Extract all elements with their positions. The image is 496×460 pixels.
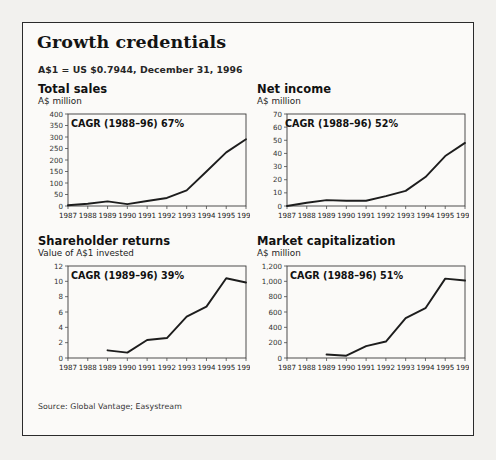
- y-axis-tick-label: 350: [49, 121, 63, 130]
- x-axis-tick-label: 1991: [138, 211, 156, 220]
- data-series-line: [68, 139, 246, 205]
- panel-shareholder-returns: Shareholder returns Value of A$1 investe…: [38, 235, 250, 383]
- panel-title: Shareholder returns: [38, 235, 250, 248]
- y-axis-tick-label: 10: [273, 188, 283, 197]
- x-axis-tick-label: 1990: [337, 211, 356, 220]
- x-axis-tick-label: 1994: [416, 211, 435, 220]
- exhibit-card: Growth credentials A$1 = US $0.7944, Dec…: [22, 22, 474, 436]
- y-axis-tick-label: 6: [58, 308, 63, 317]
- x-axis-tick-label: 1993: [178, 211, 196, 220]
- y-axis-tick-label: 10: [54, 277, 64, 286]
- x-axis-tick-label: 1991: [357, 363, 375, 372]
- y-axis-tick-label: 8: [58, 292, 63, 301]
- y-axis-tick-label: 20: [273, 175, 283, 184]
- x-axis-tick-label: 1996: [237, 363, 250, 372]
- panel-subtitle: A$ million: [38, 96, 250, 107]
- panel-subtitle: A$ million: [257, 96, 469, 107]
- x-axis-tick-label: 1990: [118, 363, 137, 372]
- panel-subtitle: A$ million: [257, 248, 469, 259]
- y-axis-tick-label: 150: [49, 167, 63, 176]
- x-axis-tick-label: 1992: [158, 211, 176, 220]
- x-axis-tick-label: 1992: [377, 363, 395, 372]
- panel-title: Total sales: [38, 83, 250, 96]
- chart-net-income: 0102030405060701987198819891990199119921…: [257, 108, 469, 231]
- panel-subtitle: Value of A$1 invested: [38, 248, 250, 259]
- x-axis-tick-label: 1988: [298, 211, 317, 220]
- x-axis-tick-label: 1991: [357, 211, 375, 220]
- x-axis-tick-label: 1987: [278, 211, 296, 220]
- x-axis-tick-label: 1990: [118, 211, 137, 220]
- panel-total-sales: Total sales A$ million 05010015020025030…: [38, 83, 250, 231]
- y-axis-tick-label: 40: [273, 149, 283, 158]
- x-axis-tick-label: 1988: [298, 363, 317, 372]
- x-axis-tick-label: 1996: [456, 211, 469, 220]
- y-axis-tick-label: 300: [49, 133, 63, 142]
- x-axis-tick-label: 1987: [278, 363, 296, 372]
- y-axis-tick-label: 30: [273, 162, 283, 171]
- x-axis-tick-label: 1987: [59, 363, 77, 372]
- y-axis-tick-label: 2: [58, 338, 63, 347]
- x-axis-tick-label: 1995: [436, 363, 454, 372]
- chart-total-sales: 0501001502002503003504001987198819891990…: [38, 108, 250, 231]
- data-series-line: [327, 279, 465, 356]
- panel-net-income: Net income A$ million 010203040506070198…: [257, 83, 469, 231]
- x-axis-tick-label: 1989: [318, 211, 337, 220]
- y-axis-tick-label: 50: [54, 190, 64, 199]
- y-axis-tick-label: 200: [268, 338, 282, 347]
- x-axis-tick-label: 1988: [79, 211, 98, 220]
- y-axis-tick-label: 0: [277, 202, 282, 211]
- y-axis-tick-label: 0: [58, 202, 63, 211]
- chart-market-capitalization: 02004006008001,0001,20019871988198919901…: [257, 260, 469, 383]
- chart-shareholder-returns: 0246810121987198819891990199119921993199…: [38, 260, 250, 383]
- y-axis-tick-label: 400: [268, 323, 282, 332]
- x-axis-tick-label: 1993: [178, 363, 196, 372]
- cagr-annotation: CAGR (1989–96) 39%: [71, 270, 184, 281]
- data-series-line: [108, 278, 246, 352]
- cagr-annotation: CAGR (1988–96) 67%: [71, 118, 184, 129]
- x-axis-tick-label: 1989: [99, 211, 118, 220]
- x-axis-tick-label: 1993: [397, 211, 415, 220]
- y-axis-tick-label: 250: [49, 144, 63, 153]
- y-axis-tick-label: 200: [49, 156, 63, 165]
- x-axis-tick-label: 1992: [377, 211, 395, 220]
- x-axis-tick-label: 1993: [397, 363, 415, 372]
- panel-title: Net income: [257, 83, 469, 96]
- y-axis-tick-label: 1,000: [262, 277, 283, 286]
- y-axis-tick-label: 400: [49, 110, 63, 119]
- x-axis-tick-label: 1989: [318, 363, 337, 372]
- x-axis-tick-label: 1994: [416, 363, 435, 372]
- y-axis-tick-label: 600: [268, 308, 282, 317]
- x-axis-tick-label: 1991: [138, 363, 156, 372]
- panel-title: Market capitalization: [257, 235, 469, 248]
- x-axis-tick-label: 1990: [337, 363, 356, 372]
- y-axis-tick-label: 1,200: [262, 262, 283, 271]
- x-axis-tick-label: 1988: [79, 363, 98, 372]
- source-note: Source: Global Vantage; Easystream: [38, 402, 182, 411]
- x-axis-tick-label: 1995: [436, 211, 454, 220]
- y-axis-tick-label: 0: [58, 354, 63, 363]
- y-axis-tick-label: 0: [277, 354, 282, 363]
- x-axis-tick-label: 1996: [456, 363, 469, 372]
- x-axis-tick-label: 1992: [158, 363, 176, 372]
- y-axis-tick-label: 12: [54, 262, 63, 271]
- x-axis-tick-label: 1995: [217, 363, 235, 372]
- cagr-annotation: CAGR (1988–96) 52%: [285, 118, 398, 129]
- y-axis-tick-label: 70: [273, 110, 283, 119]
- x-axis-tick-label: 1994: [197, 363, 216, 372]
- x-axis-tick-label: 1989: [99, 363, 118, 372]
- y-axis-tick-label: 60: [273, 123, 283, 132]
- data-series-line: [287, 143, 465, 206]
- y-axis-tick-label: 800: [268, 292, 282, 301]
- panel-market-capitalization: Market capitalization A$ million 0200400…: [257, 235, 469, 383]
- x-axis-tick-label: 1994: [197, 211, 216, 220]
- y-axis-tick-label: 4: [58, 323, 63, 332]
- x-axis-tick-label: 1987: [59, 211, 77, 220]
- exchange-rate-note: A$1 = US $0.7944, December 31, 1996: [38, 64, 243, 75]
- exhibit-title: Growth credentials: [37, 32, 226, 52]
- x-axis-tick-label: 1995: [217, 211, 235, 220]
- y-axis-tick-label: 100: [49, 179, 63, 188]
- y-axis-tick-label: 50: [273, 136, 283, 145]
- x-axis-tick-label: 1996: [237, 211, 250, 220]
- cagr-annotation: CAGR (1988–96) 51%: [290, 270, 403, 281]
